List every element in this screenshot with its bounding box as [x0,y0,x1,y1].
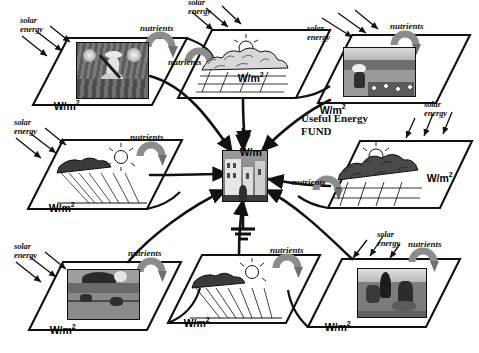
nutrients-label-mid-left: nutrients [130,133,164,142]
solar-energy-label-top-right: solar energy [307,24,330,41]
wm2-text: W/m [240,145,262,157]
link-mr-center [298,196,328,208]
wm2-label-mid-right: W/m2 [415,160,453,194]
wm2-text: W/m [50,323,72,335]
wm2-exponent: 2 [71,201,75,208]
nutrient-arc-bottom-left [140,261,162,272]
wm2-label-mid-left: W/m2 [37,190,75,224]
solar-energy-label-bottom-right: solar energy [377,230,400,247]
nutrient-arc-mid-left [140,145,162,156]
wm2-label-center: W/m2 [228,134,266,168]
art-herder-with-animals [357,268,427,318]
link-bc-br [288,290,308,327]
wm2-text: W/m [184,316,206,328]
wm2-exponent: 2 [347,320,351,327]
nutrients-label-top-center: nutrients [168,58,202,67]
wm2-label-top-left: W/m2 [42,88,80,122]
wm2-text: W/m [427,171,449,183]
nutrients-label-top-left: nutrients [140,24,174,33]
wm2-label-bottom-left: W/m2 [38,312,76,346]
wm2-text: W/m [54,99,76,111]
nutrient-arc-top-left [148,35,172,47]
wm2-label-bottom-right: W/m2 [313,309,351,343]
wm2-exponent: 2 [76,99,80,106]
solar-energy-label-top-center: solar energy [188,0,211,15]
solar-arrows-top-right [322,10,378,37]
wm2-text: W/m [49,201,71,213]
art-hill-workers-landscape [67,269,140,320]
solar-energy-label-mid-right: solar energy [424,100,447,117]
solar-energy-label-top-left: solar energy [20,16,43,33]
solar-energy-label-mid-left: solar energy [14,118,37,135]
wm2-exponent: 2 [262,145,266,152]
art-van-gogh-digger [76,42,149,99]
nutrients-label-bottom-center: nutrients [270,246,304,255]
wm2-exponent: 2 [72,323,76,330]
nutrient-arc-top-right [394,34,416,45]
wm2-text: W/m [238,71,260,83]
art-figure-flower-field [343,47,416,97]
nutrients-label-bottom-right: nutrients [408,240,442,249]
nutrients-label-top-right: nutrients [390,22,424,31]
nutrients-label-mid-right: nutrients [292,178,326,187]
wm2-label-bottom-center: W/m2 [172,305,210,339]
wm2-label-top-center: W/m2 [226,60,264,94]
art-mountain-forest [334,142,422,206]
wm2-exponent: 2 [342,103,346,110]
solar-energy-label-bottom-left: solar energy [14,242,37,259]
nutrient-arc-bottom-center [276,257,298,268]
wm2-exponent: 2 [206,316,210,323]
wm2-exponent: 2 [260,71,264,78]
energy-systems-diagram: solar energy solar energy solar energy s… [0,0,479,353]
earth-ground-icon [231,229,255,239]
flow-mid-left-to-center [150,174,228,175]
nutrient-arc-bottom-right [412,251,434,262]
useful-energy-fund-label: Useful Energy FUND [301,112,368,138]
nutrients-label-bottom-left: nutrients [128,249,162,258]
wm2-text: W/m [325,320,347,332]
wm2-exponent: 2 [449,171,453,178]
